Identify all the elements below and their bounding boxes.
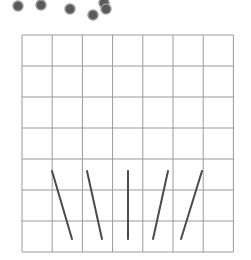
ball — [65, 4, 75, 14]
ball — [101, 4, 111, 14]
ramp-line[interactable] — [153, 171, 168, 239]
ramp-group — [52, 171, 202, 239]
ramp-line[interactable] — [181, 171, 202, 239]
ramp-line[interactable] — [87, 171, 102, 239]
ball — [88, 10, 98, 20]
ball-group — [13, 0, 111, 20]
ball — [13, 1, 23, 11]
game-scene — [0, 0, 251, 260]
ball — [36, 0, 46, 10]
ramp-line[interactable] — [52, 171, 72, 239]
